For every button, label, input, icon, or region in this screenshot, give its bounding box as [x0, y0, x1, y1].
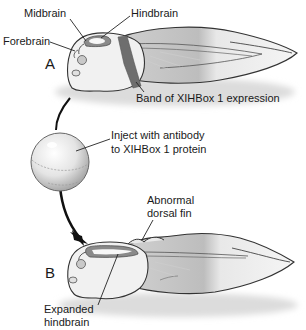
- tadpole-b: [58, 234, 298, 317]
- panel-a-letter: A: [45, 55, 55, 72]
- tadpole-b-eye: [77, 260, 86, 269]
- tadpole-a-eye: [78, 56, 87, 65]
- label-abnormal-dorsal-fin-line1: Abnormal: [147, 194, 194, 207]
- label-expanded-hindbrain-line1: Expanded: [44, 303, 94, 316]
- tadpole-a-tail-fin: [118, 27, 297, 83]
- tadpole-a-ventricle: [89, 38, 105, 44]
- diagram-canvas: A B Midbrain Hindbrain Forebrain Band of…: [0, 0, 306, 330]
- label-inject-line1: Inject with antibody: [111, 129, 205, 142]
- label-hindbrain: Hindbrain: [131, 7, 178, 20]
- label-abnormal-dorsal-fin-line2: dorsal fin: [147, 207, 192, 220]
- tadpole-b-tail-fin: [130, 234, 294, 294]
- panel-b-letter: B: [45, 264, 55, 281]
- tadpole-b-cement-gland: [69, 277, 77, 283]
- injected-embryo-sphere: [31, 133, 89, 191]
- tadpole-a-cement-gland: [72, 70, 80, 76]
- label-inject-line2: to XIHBox 1 protein: [111, 143, 206, 156]
- label-midbrain: Midbrain: [24, 7, 66, 20]
- label-forebrain: Forebrain: [3, 35, 50, 48]
- label-expanded-hindbrain-line2: hindbrain: [44, 316, 89, 329]
- label-expression-band: Band of XIHBox 1 expression: [136, 92, 280, 105]
